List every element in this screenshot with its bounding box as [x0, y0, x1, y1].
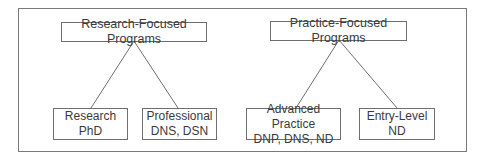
node-degrees: DNP, DNS, ND: [254, 132, 334, 147]
node-title: Research: [65, 109, 116, 124]
node-practice-focused-programs: Practice-Focused Programs: [270, 21, 407, 41]
node-degrees: PhD: [79, 124, 102, 139]
connector-research-to-phd: [91, 41, 134, 108]
connector-practice-to-entry: [339, 40, 397, 108]
node-degrees: DNS, DSN: [151, 124, 208, 139]
node-title: Entry-Level: [367, 109, 428, 124]
connector-practice-to-advanced: [296, 40, 339, 108]
node-research-focused-programs: Research-Focused Programs: [61, 22, 207, 42]
node-label: Research-Focused Programs: [62, 17, 206, 47]
node-title: Advanced Practice: [247, 102, 340, 132]
node-label: Practice-Focused Programs: [271, 16, 406, 46]
node-degrees: ND: [388, 124, 405, 139]
node-research-phd: Research PhD: [53, 108, 128, 140]
node-title: Professional: [146, 109, 212, 124]
node-professional: Professional DNS, DSN: [142, 108, 217, 140]
node-entry-level: Entry-Level ND: [359, 108, 435, 140]
connector-research-to-professional: [134, 41, 178, 108]
node-advanced-practice: Advanced Practice DNP, DNS, ND: [246, 108, 341, 140]
